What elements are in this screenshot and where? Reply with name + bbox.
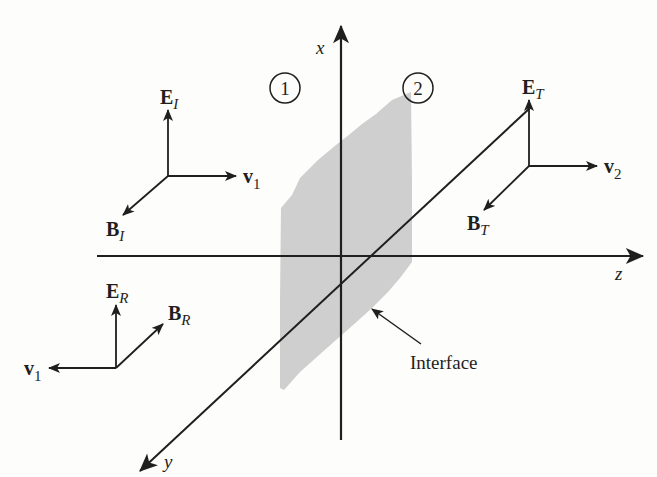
incident-wave-vectors: EI v1 BI: [106, 86, 261, 244]
reflected-E-label: ER: [106, 280, 129, 306]
transmitted-E-label: ET: [522, 76, 545, 102]
incident-B-arrow: [123, 176, 168, 215]
wave-interface-diagram: x z y 1 2 EI v1 BI ET v2 BT: [0, 0, 657, 477]
transmitted-B-label: BT: [467, 212, 490, 238]
interface-shading: [280, 92, 412, 390]
incident-E-label: EI: [160, 86, 179, 112]
x-axis-label: x: [315, 37, 325, 58]
z-axis-label: z: [614, 263, 623, 284]
transmitted-v-label: v2: [604, 155, 622, 182]
region-1-label: 1: [280, 78, 290, 99]
interface-callout: Interface: [372, 309, 478, 373]
reflected-B-label: BR: [168, 302, 191, 328]
transmitted-wave-vectors: ET v2 BT: [467, 76, 622, 238]
region-2-marker: 2: [403, 73, 433, 103]
region-1-marker: 1: [270, 73, 300, 103]
region-2-label: 2: [413, 78, 423, 99]
y-axis-label: y: [162, 451, 173, 472]
incident-B-label: BI: [106, 218, 125, 244]
interface-label: Interface: [410, 352, 478, 373]
reflected-v-label: v1: [24, 357, 42, 384]
diagram-canvas: x z y 1 2 EI v1 BI ET v2 BT: [0, 0, 657, 477]
reflected-wave-vectors: ER BR v1: [24, 280, 191, 384]
interface-pointer-arrow: [372, 309, 421, 344]
incident-v-label: v1: [243, 165, 261, 192]
reflected-B-arrow: [116, 324, 163, 368]
interface-plane: [280, 92, 412, 390]
transmitted-B-arrow: [484, 166, 529, 210]
